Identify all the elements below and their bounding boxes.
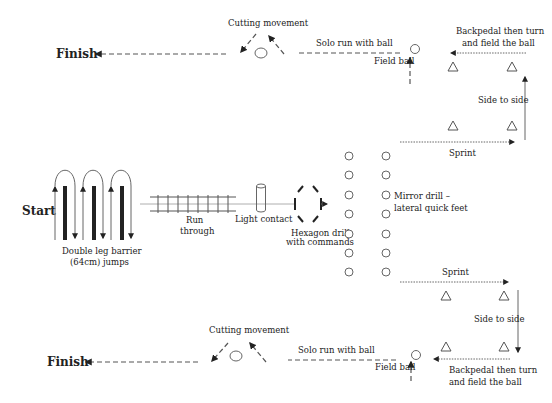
top-solo-run-label: Solo run with ball	[316, 38, 393, 48]
top-finish-label: Finish	[56, 47, 98, 61]
mirror-label-line1: Mirror drill –	[394, 191, 450, 201]
start-label: Start	[22, 204, 56, 218]
hexagon-label-line2: with commands	[286, 237, 354, 247]
bottom-solo-run-label: Solo run with ball	[298, 345, 375, 355]
bottom-backpedal-line2: and field the ball	[449, 377, 522, 387]
bottom-field-ball-label: Field ball	[375, 362, 416, 372]
agility-course-diagram: Start Double leg barrier (64cm) jumps	[0, 0, 552, 403]
bottom-cutting-cone	[230, 351, 242, 361]
top-cutting-label: Cutting movement	[228, 18, 309, 28]
top-field-ball-label: Field ball	[374, 56, 415, 66]
top-sprint-label: Sprint	[449, 148, 477, 158]
top-side-to-side-label: Side to side	[478, 95, 529, 105]
barrier-label-line2: (64cm) jumps	[70, 257, 129, 267]
top-backpedal-line2: and field the ball	[462, 38, 535, 48]
ladder-label-line2: through	[180, 226, 215, 236]
barrier-3	[111, 170, 131, 240]
mirror-drill-cones: Mirror drill – lateral quick feet	[345, 152, 468, 276]
top-backpedal-line1: Backpedal then turn	[456, 26, 545, 36]
bottom-ball-cone	[412, 351, 421, 360]
top-cutting-cone	[255, 48, 267, 58]
barrier-jumps-station: Start Double leg barrier (64cm) jumps	[22, 170, 143, 267]
light-contact-label: Light contact	[235, 214, 293, 224]
hexagon-drill: Hexagon drill with commands	[286, 186, 354, 247]
bottom-cutting-label: Cutting movement	[209, 325, 290, 335]
agility-ladder: Run through	[150, 195, 236, 236]
bottom-sprint-label: Sprint	[442, 267, 470, 277]
bottom-side-to-side-label: Side to side	[474, 314, 525, 324]
bottom-route: Sprint Side to side Backpedal then turn …	[47, 267, 538, 387]
top-route: Sprint Side to side Backpedal then turn …	[56, 18, 545, 158]
bottom-backpedal-line1: Backpedal then turn	[449, 365, 538, 375]
barrier-1	[55, 170, 75, 240]
bottom-finish-label: Finish	[47, 355, 89, 369]
mirror-label-line2: lateral quick feet	[394, 203, 468, 213]
top-ball-cone	[411, 45, 420, 54]
ladder-label-line1: Run	[186, 215, 204, 225]
barrier-label-line1: Double leg barrier	[62, 246, 143, 256]
barrier-2	[83, 170, 103, 240]
